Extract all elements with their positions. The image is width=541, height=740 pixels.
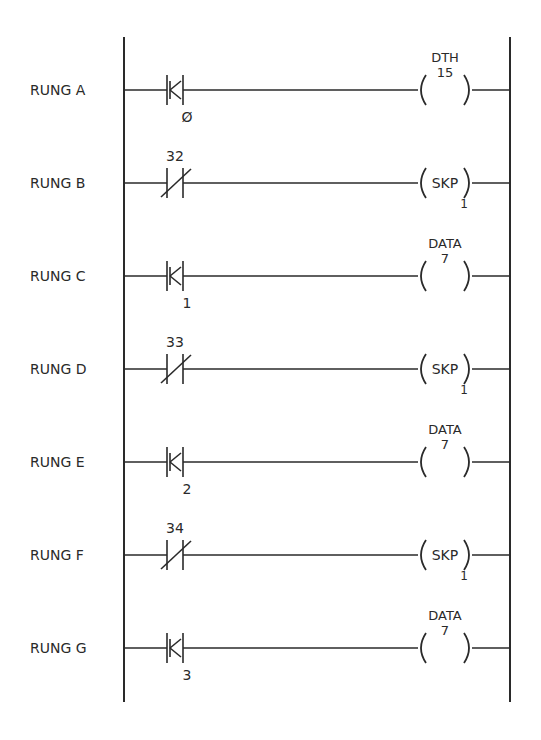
coil-function-name: DATA bbox=[428, 608, 462, 623]
rung-d: RUNG D33SKP1 bbox=[30, 334, 510, 397]
rung-label: RUNG F bbox=[30, 547, 84, 563]
k-contact-icon bbox=[167, 261, 183, 291]
coil-function-name: DTH bbox=[431, 50, 459, 65]
coil-inner-label: SKP bbox=[432, 547, 459, 563]
coil-inner-label: SKP bbox=[432, 175, 459, 191]
rung-label: RUNG A bbox=[30, 82, 86, 98]
contact-address: 34 bbox=[166, 520, 184, 536]
coil-function-value: 7 bbox=[441, 437, 449, 452]
coil-function-value: 7 bbox=[441, 623, 449, 638]
rung-label: RUNG C bbox=[30, 268, 86, 284]
rung-label: RUNG D bbox=[30, 361, 87, 377]
contact-address: 33 bbox=[166, 334, 184, 350]
ladder-diagram: RUNG AØDTH15RUNG B32SKP1RUNG C1DATA7RUNG… bbox=[0, 0, 541, 740]
coil-parameter: 1 bbox=[460, 569, 468, 583]
k-contact-icon bbox=[167, 633, 183, 663]
coil-function-value: 15 bbox=[437, 65, 454, 80]
coil-function-name: DATA bbox=[428, 422, 462, 437]
coil-parameter: 1 bbox=[460, 197, 468, 211]
rung-b: RUNG B32SKP1 bbox=[30, 148, 510, 211]
rung-c: RUNG C1DATA7 bbox=[30, 236, 510, 311]
coil-inner-label: SKP bbox=[432, 361, 459, 377]
coil-function-value: 7 bbox=[441, 251, 449, 266]
rung-g: RUNG G3DATA7 bbox=[30, 608, 510, 683]
rungs-group: RUNG AØDTH15RUNG B32SKP1RUNG C1DATA7RUNG… bbox=[30, 50, 510, 683]
rung-a: RUNG AØDTH15 bbox=[30, 50, 510, 125]
contact-address: 2 bbox=[183, 481, 192, 497]
contact-address: 32 bbox=[166, 148, 184, 164]
coil-parameter: 1 bbox=[460, 383, 468, 397]
rung-label: RUNG E bbox=[30, 454, 85, 470]
contact-address: 3 bbox=[183, 667, 192, 683]
rung-label: RUNG G bbox=[30, 640, 87, 656]
k-contact-icon bbox=[167, 447, 183, 477]
coil-function-name: DATA bbox=[428, 236, 462, 251]
contact-address: 1 bbox=[183, 295, 192, 311]
contact-address: Ø bbox=[181, 109, 192, 125]
k-contact-icon bbox=[167, 75, 183, 105]
rung-label: RUNG B bbox=[30, 175, 85, 191]
rung-f: RUNG F34SKP1 bbox=[30, 520, 510, 583]
rung-e: RUNG E2DATA7 bbox=[30, 422, 510, 497]
